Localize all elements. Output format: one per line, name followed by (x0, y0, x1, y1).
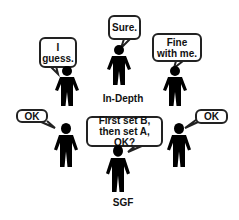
speech-bubble-sgf: First set B, then set A, OK? (86, 116, 163, 147)
person-icon-fine (162, 66, 188, 106)
person-icon-sgf (105, 145, 131, 192)
label-in-depth: In-Depth (98, 93, 148, 104)
person-icon-ok-left (53, 123, 79, 167)
person-icon-ok-right (166, 123, 192, 167)
speech-bubble-fine: Fine with me. (152, 33, 202, 62)
person-icon-in-depth (106, 45, 132, 85)
speech-bubble-ok-right: OK (195, 109, 228, 124)
speech-bubble-sure: Sure. (108, 15, 141, 40)
person-icon-guess (54, 66, 80, 106)
speech-bubble-guess: I guess. (39, 37, 77, 68)
label-sgf: SGF (103, 197, 143, 208)
speech-bubble-ok-left: OK (16, 109, 48, 123)
